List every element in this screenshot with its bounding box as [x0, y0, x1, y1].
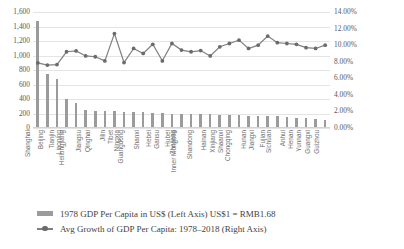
bar [84, 110, 87, 128]
bar-slot [148, 12, 158, 128]
bar-slot [129, 12, 139, 128]
gridline [33, 128, 330, 129]
bar [46, 74, 49, 128]
bar-slot [205, 12, 215, 128]
category-label: Jiangsu [75, 130, 82, 152]
bar [113, 111, 116, 128]
chart-legend: 1978 GDP Per Capita in US$ (Left Axis) U… [37, 206, 367, 236]
legend-label-bar: 1978 GDP Per Capita in US$ (Left Axis) U… [60, 209, 276, 219]
right-axis-tick-label: 12.00% [334, 25, 394, 33]
bar [132, 112, 135, 128]
bar-slot [62, 12, 72, 128]
legend-label-line: Avg Growth of GDP Per Capita: 1978–2018 … [60, 224, 267, 234]
bar-slot [244, 12, 254, 128]
bar-slot [90, 12, 100, 128]
category-label: Sichuan [266, 130, 273, 153]
category-label: Jiangxi [248, 130, 255, 150]
bar-slot [100, 12, 110, 128]
bar-slot [43, 12, 53, 128]
category-label: Guangdong [117, 130, 124, 163]
right-axis-tick-label: 6.00% [334, 74, 394, 82]
bar-slot [234, 12, 244, 128]
category-label: Hainan [200, 130, 207, 150]
bar [199, 114, 202, 128]
left-axis-tick-label: 1,000 [0, 52, 30, 60]
left-axis-tick-label: 1,400 [0, 23, 30, 31]
bar-slot [292, 12, 302, 128]
left-axis-tick-label: 200 [0, 110, 30, 118]
bar-slot [272, 12, 282, 128]
legend-item-line: Avg Growth of GDP Per Capita: 1978–2018 … [37, 221, 367, 236]
bar-slot [263, 12, 273, 128]
bar-slot [253, 12, 263, 128]
bar [56, 79, 59, 128]
left-axis-tick-label: 1,600 [0, 8, 30, 16]
chart-container: 02004006008001,0001,2001,4001,600 0.00%2… [0, 0, 404, 249]
bar-slot [71, 12, 81, 128]
left-axis-tick-label: 400 [0, 95, 30, 103]
bar-slot [225, 12, 235, 128]
bar-slot [33, 12, 43, 128]
category-axis-labels: ShanghaiBeijingTianjinLiaoningHeilongjia… [33, 130, 330, 200]
category-label: Guizhou [313, 130, 320, 154]
right-axis-tick-label: 10.00% [334, 41, 394, 49]
bar-slot [186, 12, 196, 128]
bar-slot [311, 12, 321, 128]
category-label: Hebei [144, 130, 151, 147]
category-axis-line [33, 127, 330, 128]
right-axis-tick-label: 2.00% [334, 107, 394, 115]
category-label-slot: Guizhou [320, 130, 330, 200]
category-label: Jilin [99, 130, 106, 141]
right-axis-tick-label: 8.00% [334, 58, 394, 66]
left-axis-tick-label: 600 [0, 81, 30, 89]
bar-slot [119, 12, 129, 128]
category-label: Shanghai [24, 130, 31, 157]
legend-item-bar: 1978 GDP Per Capita in US$ (Left Axis) U… [37, 206, 367, 221]
bar-slot [177, 12, 187, 128]
bar-slot [52, 12, 62, 128]
category-label: Xinjiang [208, 130, 215, 153]
bar-slot [320, 12, 330, 128]
bar [190, 114, 193, 128]
category-label: Shandong [186, 130, 193, 159]
bar-slot [196, 12, 206, 128]
bar [36, 21, 39, 128]
bar [104, 111, 107, 128]
bar [180, 114, 183, 128]
bar [65, 99, 68, 128]
category-label: Henan [287, 130, 294, 149]
bar [209, 114, 212, 128]
bar-slot [301, 12, 311, 128]
category-label-slot: Zhejiang [177, 130, 187, 200]
bar [123, 112, 126, 128]
bar [75, 103, 78, 128]
category-label: Tianjin [48, 130, 55, 149]
category-label: Gansu [153, 130, 160, 149]
bar [218, 115, 221, 128]
bar-swatch-icon [37, 211, 53, 216]
bar [171, 114, 174, 129]
bar-slot [158, 12, 168, 128]
bar-slot [167, 12, 177, 128]
bar-series [33, 12, 330, 128]
bar [94, 111, 97, 128]
plot-area: Shanghai: 7.85%Beijing: 7.6%Tianjin: 7.6… [33, 12, 330, 128]
bar-slot [138, 12, 148, 128]
category-label: Inner Mongolia [170, 130, 177, 172]
bar-slot [110, 12, 120, 128]
category-label: Beijing [38, 130, 45, 149]
right-axis-tick-label: 4.00% [334, 91, 394, 99]
right-axis-tick-label: 14.00% [334, 8, 394, 16]
line-marker-icon [37, 225, 53, 232]
bar [161, 113, 164, 128]
category-label: Shanxi [133, 130, 140, 150]
right-axis-tick-label: 0.00% [334, 124, 394, 132]
category-label: Yunnan [295, 130, 302, 152]
category-label: Heilongjiang [59, 130, 66, 165]
bar [151, 113, 154, 128]
bar-slot [282, 12, 292, 128]
category-label: Qinghai [84, 130, 91, 152]
left-axis-tick-label: 800 [0, 66, 30, 74]
category-label: Anhui [279, 130, 286, 146]
bar-slot [81, 12, 91, 128]
